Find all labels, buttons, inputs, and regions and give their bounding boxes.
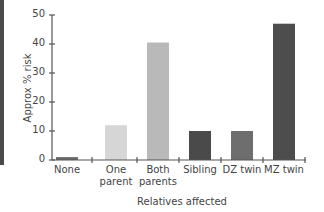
bar-dz-twin (231, 131, 253, 160)
bar-chart: Approx % risk 01020304050 NoneOneparentB… (0, 0, 324, 212)
bar-one-parent (105, 125, 127, 160)
bar-sibling (189, 131, 211, 160)
plot-area (0, 0, 324, 212)
bar-both-parents (147, 43, 169, 160)
bar-mz-twin (273, 24, 295, 160)
x-axis-label: Relatives affected (0, 196, 324, 207)
